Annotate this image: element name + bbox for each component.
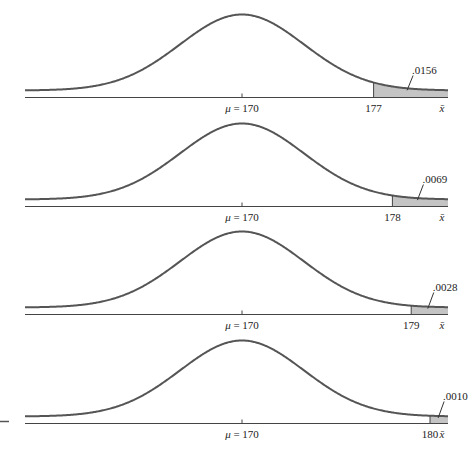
mean-label: μ = 170: [224, 102, 259, 114]
cutoff-label: 177: [365, 102, 382, 114]
tail-probability-label: .0010: [443, 390, 468, 402]
cutoff-label: 180: [422, 428, 439, 440]
normal-curve: [25, 341, 448, 417]
distribution-panel-179: μ = 170179x̄.0028: [25, 232, 458, 331]
cutoff-label: 179: [403, 319, 420, 331]
normal-curve: [25, 124, 448, 200]
distribution-panel-178: μ = 170178x̄.0069: [25, 124, 448, 223]
tail-probability-label: .0028: [433, 281, 458, 293]
tail-probability-label: .0069: [422, 173, 447, 185]
normal-curve: [25, 232, 448, 308]
x-bar-label: x̄: [439, 102, 445, 114]
mean-label: μ = 170: [224, 211, 259, 223]
normal-distribution-figure: μ = 170177x̄.0156μ = 170178x̄.0069μ = 17…: [0, 0, 474, 466]
cutoff-label: 178: [384, 211, 401, 223]
x-bar-label: x̄: [439, 428, 445, 440]
distribution-panel-177: μ = 170177x̄.0156: [25, 15, 448, 114]
mean-label: μ = 170: [224, 319, 259, 331]
normal-curve: [25, 15, 448, 91]
x-bar-label: x̄: [439, 211, 445, 223]
distribution-panel-180: μ = 170180x̄.0010: [25, 341, 468, 440]
x-bar-label: x̄: [439, 319, 445, 331]
tail-probability-label: .0156: [412, 64, 437, 76]
mean-label: μ = 170: [224, 428, 259, 440]
